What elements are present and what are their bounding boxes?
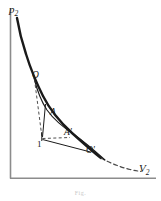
curves-group bbox=[17, 18, 141, 171]
point-label-A: A bbox=[50, 108, 56, 118]
main-isotherm-solid-curve bbox=[17, 18, 101, 158]
point-label-one: 1 bbox=[37, 140, 42, 149]
x-axis-label: V2 bbox=[139, 163, 149, 177]
point-label-O-prime: O' bbox=[86, 146, 95, 156]
main-isotherm-dashed-extension bbox=[101, 158, 141, 171]
figure-caption: Fig. bbox=[0, 190, 161, 198]
y-axis-label-subscript: 2 bbox=[15, 9, 19, 18]
chord-point1-to-Aprime-dashed bbox=[43, 138, 71, 139]
pressure-volume-figure: p2 V2 O A A' O' 1 Fig. bbox=[0, 0, 161, 201]
segment-A-to-point1-line bbox=[43, 104, 46, 137]
plot-canvas bbox=[0, 0, 161, 201]
y-axis-label: p2 bbox=[9, 4, 18, 18]
x-axis-label-subscript: 2 bbox=[146, 168, 150, 177]
point-label-A-prime: A' bbox=[64, 128, 72, 138]
x-axis-label-base: V bbox=[139, 162, 146, 174]
axes-group bbox=[10, 8, 156, 179]
point-label-O: O bbox=[32, 71, 39, 81]
